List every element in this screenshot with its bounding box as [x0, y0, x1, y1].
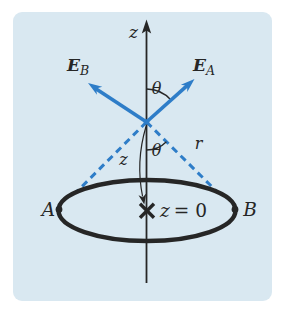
- label-point-b: B: [242, 199, 257, 220]
- label-theta-lower: θ: [152, 141, 162, 160]
- label-r: r: [195, 134, 204, 153]
- field-point-dot: [144, 119, 150, 125]
- ring-field-diagram: z EB EA θ θ r z A B z= 0: [0, 0, 287, 323]
- label-point-a: A: [40, 199, 55, 220]
- label-z-distance: z: [118, 150, 128, 169]
- point-b-dot: [232, 206, 239, 213]
- diagram-canvas: z EB EA θ θ r z A B z= 0: [0, 0, 287, 323]
- panel-background: [13, 12, 272, 301]
- label-origin: z= 0: [159, 200, 207, 221]
- point-a-dot: [56, 206, 63, 213]
- axis-label-z: z: [128, 22, 139, 42]
- label-theta-upper: θ: [152, 79, 162, 98]
